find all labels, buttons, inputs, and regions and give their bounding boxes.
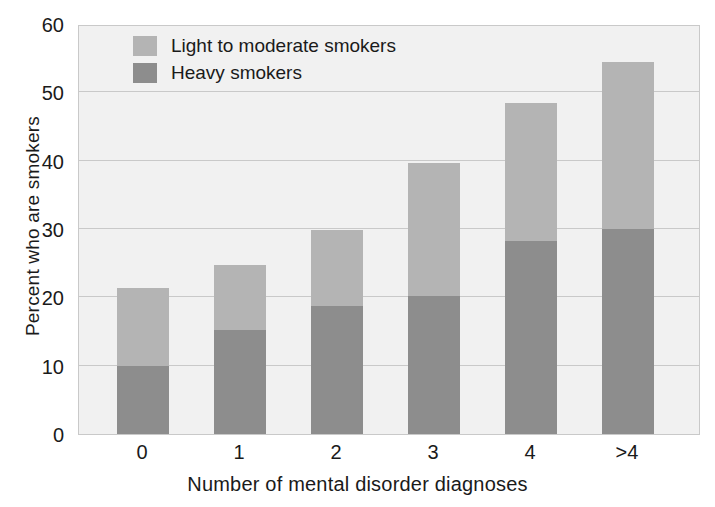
bar-segment-light-to-moderate-smokers xyxy=(505,103,557,241)
x-tick-label-0: 0 xyxy=(102,441,182,464)
bar-segment-light-to-moderate-smokers xyxy=(214,265,266,331)
bar-segment-heavy-smokers xyxy=(214,330,266,434)
x-tick-label-4: 4 xyxy=(490,441,570,464)
stacked-bar-chart-figure: Percent who are smokers 0102030405060 Li… xyxy=(0,0,715,507)
plot-area: Light to moderate smokers Heavy smokers xyxy=(78,25,700,435)
bar-segment-light-to-moderate-smokers xyxy=(408,163,460,296)
y-tick-label-60: 60 xyxy=(42,14,64,37)
bar-group-1 xyxy=(214,265,266,434)
bar-segment-heavy-smokers xyxy=(408,296,460,434)
bar-segment-light-to-moderate-smokers xyxy=(311,230,363,305)
x-axis-title: Number of mental disorder diagnoses xyxy=(0,473,715,496)
x-tick-label-3: 3 xyxy=(393,441,473,464)
x-axis-tick-labels: 01234>4 xyxy=(78,441,700,471)
bar-series-layer xyxy=(79,26,699,434)
legend-label-light-to-moderate-smokers: Light to moderate smokers xyxy=(171,35,396,57)
bar-group-gt4 xyxy=(602,62,654,434)
bar-group-4 xyxy=(505,103,557,434)
bar-segment-heavy-smokers xyxy=(117,366,169,434)
bar-segment-light-to-moderate-smokers xyxy=(117,288,169,365)
y-axis-tick-labels: 0102030405060 xyxy=(0,0,74,507)
bar-group-3 xyxy=(408,163,460,434)
y-tick-label-50: 50 xyxy=(42,82,64,105)
legend-label-heavy-smokers: Heavy smokers xyxy=(171,62,302,84)
x-tick-label-2: 2 xyxy=(296,441,376,464)
bar-segment-heavy-smokers xyxy=(311,306,363,434)
y-tick-label-20: 20 xyxy=(42,287,64,310)
chart-legend: Light to moderate smokers Heavy smokers xyxy=(133,32,396,86)
legend-item-heavy-smokers: Heavy smokers xyxy=(133,59,396,86)
y-tick-label-10: 10 xyxy=(42,355,64,378)
bar-segment-heavy-smokers xyxy=(505,241,557,434)
legend-swatch-light-to-moderate-smokers xyxy=(133,36,157,56)
legend-item-light-to-moderate-smokers: Light to moderate smokers xyxy=(133,32,396,59)
bar-group-0 xyxy=(117,288,169,434)
bar-group-2 xyxy=(311,230,363,434)
y-tick-label-0: 0 xyxy=(53,424,64,447)
y-tick-label-30: 30 xyxy=(42,219,64,242)
bar-segment-heavy-smokers xyxy=(602,229,654,434)
bar-segment-light-to-moderate-smokers xyxy=(602,62,654,229)
x-tick-label-gt4: >4 xyxy=(587,441,667,464)
legend-swatch-heavy-smokers xyxy=(133,63,157,83)
x-tick-label-1: 1 xyxy=(199,441,279,464)
y-tick-label-40: 40 xyxy=(42,150,64,173)
